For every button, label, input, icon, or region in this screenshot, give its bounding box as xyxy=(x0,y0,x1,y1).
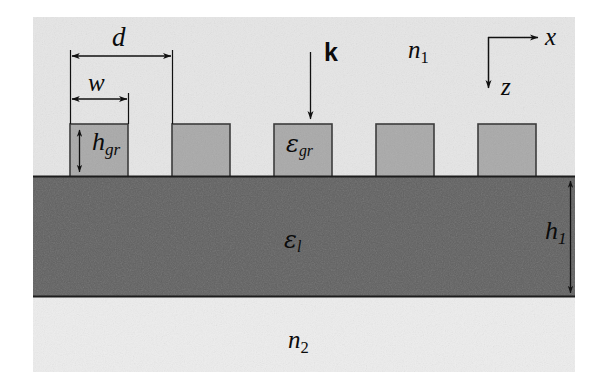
label-layer-permittivity-eps-l: εl xyxy=(284,228,301,255)
grating-bar xyxy=(478,124,536,177)
label-eps-gr-base: ε xyxy=(286,130,299,158)
label-index-superstrate-n1: n1 xyxy=(408,37,429,66)
label-wavevector-k: k xyxy=(324,40,338,65)
label-h-gr-base: h xyxy=(92,127,105,156)
label-n2-subscript: 2 xyxy=(301,338,309,357)
label-h-1-base: h xyxy=(545,216,558,245)
label-period-d: d xyxy=(112,24,126,51)
grating-bar xyxy=(172,124,230,177)
grating-bar xyxy=(376,124,434,177)
label-eps-gr-subscript: gr xyxy=(299,142,313,159)
waveguide-layer-region xyxy=(33,176,575,297)
label-index-substrate-n2: n2 xyxy=(288,327,309,356)
label-grating-permittivity-eps-gr: εgr xyxy=(286,132,313,159)
label-n1-subscript: 1 xyxy=(421,48,429,67)
label-axis-x: x xyxy=(545,24,556,49)
label-eps-l-base: ε xyxy=(284,226,297,254)
label-layer-thickness-h-1: h1 xyxy=(545,218,567,247)
label-eps-l-subscript: l xyxy=(297,238,301,255)
label-grating-height-h-gr: hgr xyxy=(92,129,120,158)
label-linewidth-w: w xyxy=(88,70,105,95)
label-h-1-subscript: 1 xyxy=(558,229,567,248)
grating-schematic-figure: d w hgr εgr εl h1 k n1 n2 x z xyxy=(0,0,608,385)
label-axis-z: z xyxy=(501,74,511,99)
label-n1-base: n xyxy=(408,36,421,63)
label-n2-base: n xyxy=(288,326,301,353)
label-h-gr-subscript: gr xyxy=(105,140,120,159)
